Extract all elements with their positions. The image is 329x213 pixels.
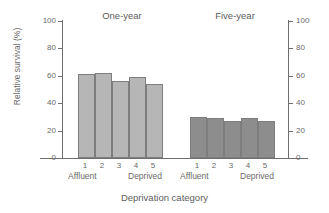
y-ticklabel-right-60: 60 <box>296 72 305 80</box>
end-label-five-year-affluent: Affluent <box>180 172 209 181</box>
y-ticklabel-left-40: 40 <box>47 99 56 107</box>
x-ticklabel-one-year-2: 2 <box>95 161 109 170</box>
y-tick-left-0 <box>58 158 62 159</box>
bar-five-year-5 <box>258 121 275 158</box>
x-axis-line <box>40 158 308 159</box>
bar-five-year-4 <box>241 118 258 158</box>
bar-five-year-1 <box>190 117 207 158</box>
bar-five-year-2 <box>207 118 224 158</box>
y-tick-left-100 <box>58 21 62 22</box>
y-axis-title: Relative survival (%) <box>13 17 22 117</box>
y-tick-right-40 <box>289 103 293 104</box>
end-label-five-year-deprived: Deprived <box>240 172 274 181</box>
y-tick-left-20 <box>58 131 62 132</box>
relative-survival-bar-chart: 100 80 60 40 20 0 100 80 60 40 20 0 One-… <box>0 0 329 213</box>
x-ticklabel-one-year-1: 1 <box>78 161 92 170</box>
y-ticklabel-left-20: 20 <box>47 127 56 135</box>
bar-one-year-4 <box>129 77 146 158</box>
x-ticklabel-one-year-4: 4 <box>129 161 143 170</box>
y-ticklabel-right-0: 0 <box>296 154 300 162</box>
y-ticklabel-right-20: 20 <box>296 127 305 135</box>
y-axis-left-line <box>62 20 63 159</box>
bar-one-year-2 <box>95 73 112 158</box>
y-tick-left-80 <box>58 48 62 49</box>
bar-one-year-1 <box>78 74 95 158</box>
y-ticklabel-right-100: 100 <box>296 17 309 25</box>
y-tick-right-80 <box>289 48 293 49</box>
y-tick-left-40 <box>58 103 62 104</box>
y-tick-left-60 <box>58 76 62 77</box>
x-ticklabel-five-year-1: 1 <box>190 161 204 170</box>
y-ticklabel-left-0: 0 <box>52 154 56 162</box>
y-tick-right-100 <box>289 21 293 22</box>
group-title-one-year: One-year <box>77 11 167 21</box>
y-tick-right-60 <box>289 76 293 77</box>
bar-one-year-3 <box>112 81 129 158</box>
end-label-one-year-affluent: Affluent <box>68 172 97 181</box>
y-ticklabel-right-80: 80 <box>296 44 305 52</box>
x-ticklabel-one-year-5: 5 <box>146 161 160 170</box>
bar-one-year-5 <box>146 84 163 158</box>
group-title-five-year: Five-year <box>190 11 280 21</box>
y-ticklabel-left-100: 100 <box>43 17 56 25</box>
x-ticklabel-five-year-3: 3 <box>224 161 238 170</box>
y-ticklabel-left-60: 60 <box>47 72 56 80</box>
x-ticklabel-one-year-3: 3 <box>112 161 126 170</box>
x-ticklabel-five-year-2: 2 <box>207 161 221 170</box>
y-tick-right-0 <box>289 158 293 159</box>
x-ticklabel-five-year-4: 4 <box>241 161 255 170</box>
y-ticklabel-right-40: 40 <box>296 99 305 107</box>
end-label-one-year-deprived: Deprived <box>128 172 162 181</box>
y-tick-right-20 <box>289 131 293 132</box>
bar-five-year-3 <box>224 121 241 158</box>
y-ticklabel-left-80: 80 <box>47 44 56 52</box>
x-axis-title: Deprivation category <box>0 193 329 203</box>
y-axis-right-line <box>288 20 289 159</box>
x-ticklabel-five-year-5: 5 <box>258 161 272 170</box>
